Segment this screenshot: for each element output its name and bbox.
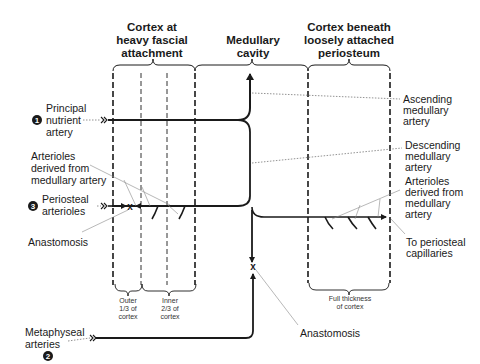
brace-outer-third	[115, 284, 142, 296]
inflow-chevrons	[90, 117, 107, 341]
svg-text:arterioles: arterioles	[42, 205, 85, 217]
svg-text:cavity: cavity	[237, 47, 270, 59]
header-left-cortex: Cortex at heavy fascial attachment	[116, 21, 188, 59]
leader-descending	[252, 148, 402, 163]
svg-text:3: 3	[31, 202, 36, 211]
svg-text:Principal: Principal	[46, 102, 86, 114]
svg-text:heavy fascial: heavy fascial	[116, 34, 188, 46]
svg-text:Periosteal: Periosteal	[42, 193, 89, 205]
leader-arterioles-right-c	[378, 199, 380, 217]
brace-left-cortex	[113, 59, 195, 71]
label-anastomosis-bottom: Anastomosis	[300, 327, 360, 339]
hook-right-2	[348, 217, 357, 229]
hook-left-2	[179, 206, 185, 219]
svg-text:Outer: Outer	[119, 297, 137, 304]
svg-text:artery: artery	[46, 126, 74, 138]
label-to-periosteal-capillaries: To periosteal capillaries	[406, 236, 466, 259]
svg-text:Anastomosis: Anastomosis	[300, 327, 360, 339]
svg-text:Inner: Inner	[162, 297, 179, 304]
metaphyseal-anastomosis-mark: x	[250, 261, 256, 272]
svg-text:capillaries: capillaries	[406, 247, 453, 259]
leader-metaphyseal	[68, 338, 90, 341]
header-medullary-cavity: Medullary cavity	[226, 34, 280, 59]
principal-nutrient-artery	[108, 74, 250, 120]
svg-text:cortex: cortex	[118, 313, 138, 320]
svg-text:Metaphyseal: Metaphyseal	[25, 326, 85, 338]
label-anastomosis-left: Anastomosis	[28, 236, 88, 248]
descending-medullary-artery	[112, 120, 250, 206]
hook-right-3	[368, 217, 376, 229]
svg-text:attachment: attachment	[121, 47, 183, 59]
label-descending-medullary-artery: Descending medullary artery	[405, 139, 461, 173]
svg-text:nutrient: nutrient	[46, 114, 81, 126]
svg-text:Arterioles: Arterioles	[31, 150, 75, 162]
svg-text:2: 2	[46, 352, 51, 361]
svg-text:periosteum: periosteum	[318, 47, 380, 59]
brace-medullary	[195, 59, 308, 71]
chevron-metaphyseal-icon	[90, 335, 96, 341]
svg-text:Cortex beneath: Cortex beneath	[307, 21, 391, 33]
chevron-periosteal-icon	[101, 203, 107, 209]
brace-right-cortex	[308, 59, 390, 71]
svg-text:Anastomosis: Anastomosis	[28, 236, 88, 248]
svg-text:loosely attached: loosely attached	[304, 34, 394, 46]
bottom-brace-labels: Outer 1/3 of cortex Inner 2/3 of cortex …	[118, 295, 371, 320]
svg-text:2/3 of: 2/3 of	[161, 305, 179, 312]
periosteal-anastomosis-mark: x	[127, 201, 133, 212]
label-principal-nutrient-artery: 1 Principal nutrient artery	[32, 102, 86, 138]
svg-text:Medullary: Medullary	[226, 34, 280, 46]
label-periosteal-arterioles: 3 Periosteal arterioles	[28, 193, 89, 217]
leader-ascending	[252, 93, 400, 99]
svg-text:artery: artery	[405, 161, 433, 173]
svg-text:derived from: derived from	[31, 162, 90, 174]
brace-inner-two-thirds	[142, 284, 196, 296]
leader-arterioles-left-c	[142, 187, 150, 206]
svg-text:cortex: cortex	[160, 313, 180, 320]
svg-text:Full thickness: Full thickness	[329, 295, 372, 302]
chevron-principal-icon	[101, 117, 107, 123]
svg-text:artery: artery	[403, 115, 431, 127]
header-right-cortex: Cortex beneath loosely attached perioste…	[304, 21, 394, 59]
bone-blood-supply-diagram: Cortex at heavy fascial attachment Medul…	[0, 0, 480, 364]
svg-text:Cortex at: Cortex at	[127, 21, 177, 33]
right-medullary-branch	[252, 207, 386, 217]
label-metaphyseal-arteries: Metaphyseal arteries 2	[25, 326, 85, 361]
svg-text:artery: artery	[405, 208, 433, 220]
svg-text:1/3 of: 1/3 of	[119, 305, 137, 312]
leader-anastomosis-left	[82, 210, 128, 232]
svg-text:of cortex: of cortex	[337, 303, 364, 310]
leader-to-periosteal	[391, 219, 405, 234]
svg-text:arteries: arteries	[25, 338, 60, 350]
hook-right-1	[325, 217, 333, 229]
svg-text:1: 1	[35, 116, 40, 125]
brace-full-thickness	[309, 283, 389, 295]
svg-text:medullary artery: medullary artery	[31, 174, 107, 186]
label-arterioles-derived-right: Arterioles derived from medullary artery	[405, 175, 464, 220]
top-braces	[113, 59, 390, 71]
leader-anastomosis-bottom	[256, 270, 298, 325]
hook-left-1	[152, 206, 158, 219]
label-ascending-medullary-artery: Ascending medullary artery	[403, 93, 452, 127]
